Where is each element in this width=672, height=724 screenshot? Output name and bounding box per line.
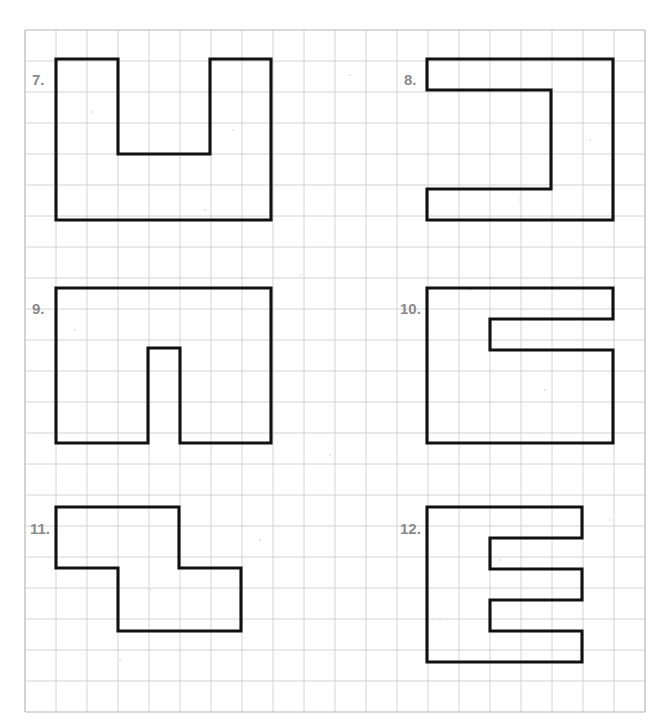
figure-12 xyxy=(427,507,582,662)
figure-7 xyxy=(56,59,271,220)
worksheet-page: 7.8.9.10.11.12. xyxy=(0,0,672,724)
figure-number-label: 12. xyxy=(400,521,421,536)
figure-number-label: 9. xyxy=(32,301,45,316)
figures-layer xyxy=(0,0,672,724)
figure-8 xyxy=(427,59,613,220)
figure-11 xyxy=(56,507,241,631)
figure-number-label: 11. xyxy=(30,521,50,536)
figure-number-label: 10. xyxy=(400,301,421,316)
figure-number-label: 7. xyxy=(32,72,45,87)
figure-10 xyxy=(427,288,613,443)
figure-9 xyxy=(56,288,271,443)
figure-number-label: 8. xyxy=(404,72,417,87)
